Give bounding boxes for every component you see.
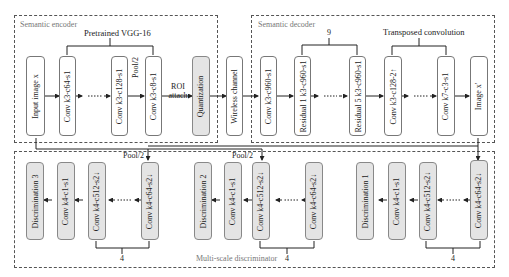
conv-k4-c1-block-3[interactable]: Conv k4-c1-s1 (57, 162, 75, 240)
repeat-label-scale-3: 4 (120, 254, 124, 263)
block-label: Conv k4-c1-s1 (229, 177, 238, 224)
discrimination-1-block[interactable]: Discrimination 1 (356, 162, 374, 240)
input-image-block[interactable]: Input image x (26, 56, 45, 136)
pool-label-scale-2: Pool/2 (232, 151, 253, 160)
discrimination-3-block[interactable]: Discrimination 3 (26, 162, 44, 240)
conv-k3-c64-block[interactable]: Conv k3-c64-s1 (59, 56, 76, 136)
block-label: Conv k4-c1-s1 (393, 177, 402, 224)
repeat-label-scale-1: 4 (451, 254, 455, 263)
block-label: Discrimination 1 (361, 174, 370, 228)
block-label: Input image x (31, 74, 40, 118)
residual-repeat-label: 9 (327, 28, 331, 37)
conv-k3-c8-block[interactable]: Conv k3-c8-s1 (145, 56, 162, 136)
block-label: Conv k4-c64-s2↓ (146, 173, 155, 228)
conv-k4-c512-block-2[interactable]: Conv k4-c512-s2↓ (252, 162, 270, 240)
wireless-channel-block[interactable]: Wireless channel (226, 56, 243, 136)
discrimination-2-block[interactable]: Discrimination 2 (194, 162, 212, 240)
roi-attach-label: ROI attach (163, 82, 193, 100)
attach-label: attach (163, 91, 193, 100)
block-label: Conv k4-c512-s2↓ (93, 171, 102, 230)
block-label: Residual 1 k3-c960-s1 (298, 60, 307, 132)
block-label: Quantization (197, 75, 206, 116)
block-label: Residual 5 k3-c960-s1 (353, 60, 362, 132)
residual-5-block[interactable]: Residual 5 k3-c960-s1 (349, 56, 366, 136)
conv-k7-c3-block[interactable]: Conv k7-c3-s1 (437, 56, 455, 136)
conv-k3-c960-block[interactable]: Conv k3-c960-s1 (260, 56, 277, 136)
conv-k4-c64-block-2[interactable]: Conv k4-c64-s2↓ (305, 162, 323, 240)
block-label: Conv k4-c512-s2↓ (257, 171, 266, 230)
block-label: Image x' (475, 82, 484, 109)
block-label: Conv k4-c512-s2↓ (424, 171, 433, 230)
block-label: Conv k3-c128-s1 (115, 68, 124, 123)
conv-k4-c512-block-3[interactable]: Conv k4-c512-s2↓ (88, 162, 106, 240)
conv-k3-c128-block[interactable]: Conv k3-c128-s1 (111, 56, 128, 136)
conv-k4-c1-block-2[interactable]: Conv k4-c1-s1 (224, 162, 242, 240)
roi-label: ROI (163, 82, 193, 91)
pool-label-text: Pool/2 (131, 57, 140, 78)
block-label: Conv k4-c64-s2↓ (475, 172, 484, 227)
conv-k4-c1-block-1[interactable]: Conv k4-c1-s1 (388, 162, 406, 240)
block-label: Conv k4-c64-s2↓ (310, 173, 319, 228)
block-label: Conv k4-c1-s1 (62, 177, 71, 224)
block-label: Discrimination 3 (31, 174, 40, 228)
block-label: Wireless channel (230, 69, 239, 124)
block-label: Conv k3-c960-s1 (264, 68, 273, 123)
conv-k3-c128-transposed-block[interactable]: Conv k3-c128-2↑ (384, 56, 402, 136)
block-label: Conv k3-c8-s1 (149, 72, 158, 119)
conv-k4-c64-block-3[interactable]: Conv k4-c64-s2↓ (141, 162, 159, 240)
pretrained-vgg-label: Pretrained VGG-16 (84, 28, 151, 38)
residual-1-block[interactable]: Residual 1 k3-c960-s1 (294, 56, 311, 136)
transposed-convolution-label: Transposed convolution (383, 27, 465, 37)
pool-label-scale-3: Pool/2 (123, 151, 144, 160)
pool-label-encoder: Pool/2 (131, 57, 140, 78)
block-label: Discrimination 2 (199, 174, 208, 228)
image-x-prime-block[interactable]: Image x' (470, 56, 488, 136)
repeat-label-scale-2: 4 (285, 254, 289, 263)
conv-k4-c64-block-1[interactable]: Conv k4-c64-s2↓ (470, 160, 488, 240)
conv-k4-c512-block-1[interactable]: Conv k4-c512-s2↓ (419, 162, 437, 240)
block-label: Conv k3-c128-2↑ (389, 68, 398, 124)
block-label: Conv k3-c64-s1 (63, 70, 72, 121)
quantization-block[interactable]: Quantization (192, 56, 210, 136)
block-label: Conv k7-c3-s1 (442, 72, 451, 119)
